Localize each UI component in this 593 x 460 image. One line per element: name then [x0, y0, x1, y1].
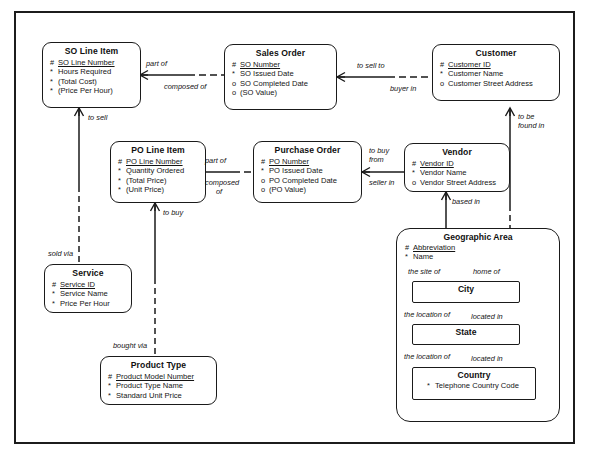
entity-country[interactable]: Country * Telephone Country Code — [412, 367, 536, 400]
attribute-marker: * — [440, 69, 448, 78]
attribute-row: # SO Line Number — [43, 58, 140, 67]
attribute-label: (Unit Price) — [126, 185, 164, 194]
attribute-row: # Vendor ID — [405, 159, 509, 168]
entity-name: Sales Order — [225, 48, 336, 59]
rel-label-to-be-found-in-line2: found in — [518, 122, 544, 131]
attribute-label: SO Line Number — [58, 58, 115, 67]
entity-service[interactable]: Service # Service ID * Service Name * Pr… — [44, 264, 132, 313]
rel-label-home-of: home of — [473, 268, 500, 277]
attribute-row: * Hours Required — [43, 67, 140, 76]
entity-purchase-order[interactable]: Purchase Order # PO Number * PO Issued D… — [253, 141, 362, 203]
attribute-label: Vendor Name — [420, 168, 466, 177]
rel-label-composed-of-1: composed of — [164, 83, 206, 92]
attribute-marker: o — [440, 79, 448, 88]
rel-label-to-buy: to buy — [163, 209, 183, 218]
attribute-label: Name — [413, 252, 433, 261]
attribute-label: Customer Name — [448, 69, 503, 78]
attribute-marker: * — [118, 166, 126, 175]
entity-name: State — [413, 325, 519, 338]
attribute-label: Service Name — [60, 289, 108, 298]
attribute-row: o (SO Value) — [225, 88, 336, 97]
attribute-marker: o — [232, 79, 240, 88]
attribute-marker: # — [108, 372, 116, 381]
attribute-row: * (Total Cost) — [43, 77, 140, 86]
attribute-row: # PO Number — [254, 157, 361, 166]
entity-name: Country — [413, 368, 535, 381]
attribute-label: Customer Street Address — [448, 79, 533, 88]
rel-label-located-in-1: located in — [471, 313, 503, 322]
attribute-marker: * — [108, 381, 116, 390]
attribute-marker: # — [261, 157, 269, 166]
attribute-label: (Price Per Hour) — [58, 86, 113, 95]
attribute-marker: * — [50, 77, 58, 86]
rel-label-to-sell-to: to sell to — [357, 62, 385, 71]
attribute-label: Telephone Country Code — [435, 381, 519, 390]
attribute-row: # Service ID — [45, 280, 131, 289]
attribute-row: o Customer Street Address — [433, 79, 559, 88]
attribute-marker: # — [412, 159, 420, 168]
attribute-label: Product Type Name — [116, 381, 183, 390]
attribute-marker: o — [412, 178, 420, 187]
attribute-label: (SO Value) — [240, 88, 277, 97]
attribute-row: * Telephone Country Code — [413, 381, 535, 390]
attribute-marker: # — [52, 280, 60, 289]
rel-label-composed-of-2-line2: of — [216, 188, 222, 197]
rel-label-located-in-2: located in — [471, 355, 503, 364]
attribute-marker: * — [427, 381, 435, 390]
attribute-row: * (Unit Price) — [111, 185, 205, 194]
entity-vendor[interactable]: Vendor # Vendor ID * Vendor Name o Vendo… — [404, 143, 510, 192]
relationship-line-part-of-sales-order — [140, 71, 224, 80]
rel-label-the-location-of-1: the location of — [404, 311, 450, 320]
entity-name: Vendor — [405, 147, 509, 158]
entity-name: City — [413, 282, 519, 295]
attribute-row: o PO Completed Date — [254, 176, 361, 185]
attribute-marker: * — [118, 185, 126, 194]
attribute-marker: * — [52, 289, 60, 298]
relationship-line-to-sell-sold-via — [75, 108, 84, 264]
rel-label-part-of-2: part of — [205, 157, 226, 166]
attribute-label: PO Number — [269, 157, 309, 166]
entity-name: Service — [45, 268, 131, 279]
rel-label-part-of-1: part of — [146, 60, 167, 69]
entity-state[interactable]: State — [412, 324, 520, 345]
entity-po-line-item[interactable]: PO Line Item # PO Line Number * Quantity… — [110, 141, 206, 203]
attribute-label: (Total Cost) — [58, 77, 97, 86]
rel-label-based-in: based in — [452, 198, 480, 207]
entity-product-type[interactable]: Product Type # Product Model Number * Pr… — [100, 356, 217, 405]
entity-name: PO Line Item — [111, 145, 205, 156]
rel-label-the-site-of: the site of — [408, 268, 440, 277]
entity-so-line-item[interactable]: SO Line Item # SO Line Number * Hours Re… — [42, 42, 141, 108]
attribute-label: Hours Required — [58, 67, 111, 76]
attribute-marker: * — [108, 391, 116, 400]
rel-label-bought-via: bought via — [113, 342, 147, 351]
attribute-label: Vendor Street Address — [420, 178, 496, 187]
attribute-row: * Product Type Name — [101, 381, 216, 390]
attribute-label: Price Per Hour — [60, 299, 110, 308]
rel-label-buyer-in: buyer in — [390, 85, 416, 94]
attribute-row: * Quantity Ordered — [111, 166, 205, 175]
attribute-marker: o — [261, 176, 269, 185]
attribute-row: * Standard Unit Price — [101, 391, 216, 400]
entity-sales-order[interactable]: Sales Order # SO Number * SO Issued Date… — [224, 44, 337, 110]
attribute-marker: * — [50, 86, 58, 95]
entity-customer[interactable]: Customer # Customer ID * Customer Name o… — [432, 44, 560, 101]
attribute-marker: # — [405, 243, 413, 252]
entity-city[interactable]: City — [412, 281, 520, 303]
rel-label-seller-in: seller in — [369, 179, 394, 188]
attribute-marker: * — [118, 176, 126, 185]
entity-name: Geographic Area — [397, 229, 559, 243]
attribute-row: * SO Issued Date — [225, 69, 336, 78]
attribute-label: (PO Value) — [269, 185, 306, 194]
attribute-marker: # — [232, 60, 240, 69]
attribute-row: * Price Per Hour — [45, 299, 131, 308]
rel-label-sold-via: sold via — [48, 250, 73, 259]
attribute-marker: * — [261, 166, 269, 175]
attribute-label: SO Completed Date — [240, 79, 308, 88]
attribute-row: # PO Line Number — [111, 157, 205, 166]
entity-name: SO Line Item — [43, 46, 140, 57]
rel-label-to-sell: to sell — [88, 114, 107, 123]
attribute-row: # Customer ID — [433, 60, 559, 69]
attribute-row: # Product Model Number — [101, 372, 216, 381]
attribute-marker: # — [440, 60, 448, 69]
attribute-marker: * — [405, 252, 413, 261]
